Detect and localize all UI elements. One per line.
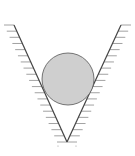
apex-marks <box>57 145 76 146</box>
apex-dot-left <box>57 145 58 146</box>
apex-dot-right <box>75 145 76 146</box>
v-groove-ball-diagram <box>0 0 135 156</box>
ball <box>42 53 94 105</box>
